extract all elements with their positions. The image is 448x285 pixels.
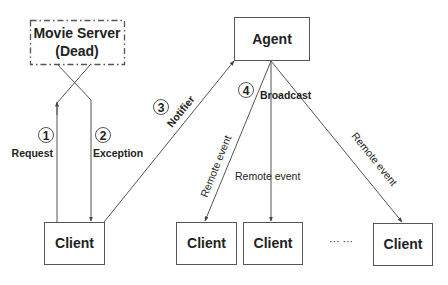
movie-server-node: Movie Server (Dead) [31,21,125,65]
client-requester-label: Client [55,235,94,251]
step-3-marker: 3 [154,100,169,115]
step-3-number: 3 [158,101,165,115]
exception-label: Exception [93,147,143,159]
ellipsis: ··· ··· [329,235,353,247]
client-a-node: Client [177,223,237,265]
exception-edge [58,65,91,221]
client-a-label: Client [187,235,226,251]
client-c-label: Client [384,236,423,252]
broadcast-diagram: Movie Server (Dead) 1 Request 2 Exceptio… [0,0,448,285]
step-1-marker: 1 [39,128,54,143]
client-c-node: Client [374,224,433,266]
agent-node: Agent [235,18,310,61]
request-label: Request [12,147,54,159]
agent-label: Agent [252,31,292,47]
step-2-marker: 2 [96,128,111,143]
step-1-number: 1 [43,129,50,143]
request-edge [57,65,90,222]
remote-event-label-3: Remote event [349,130,400,188]
client-b-node: Client [244,223,303,265]
movie-server-label: Movie Server [33,25,121,41]
step-4-number: 4 [243,84,250,98]
remote-event-label-2: Remote event [235,170,300,182]
step-4-marker: 4 [239,83,254,98]
client-b-label: Client [254,235,293,251]
step-2-number: 2 [100,129,107,143]
broadcast-label: Broadcast [260,89,312,101]
notifier-label: Notifier [164,93,196,129]
remote-event-edge-3 [271,61,402,222]
movie-server-status: (Dead) [55,43,99,59]
client-requester-node: Client [45,223,105,265]
